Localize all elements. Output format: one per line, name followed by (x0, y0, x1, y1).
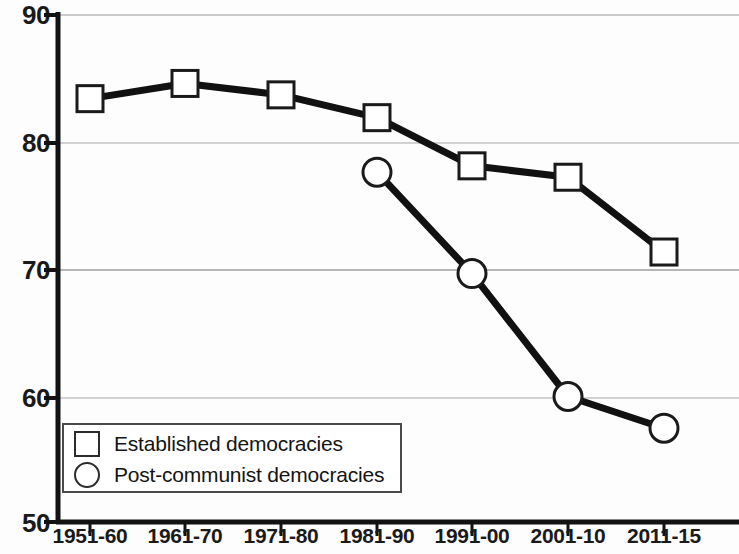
line-chart: 90 80 70 60 50 (0, 0, 739, 554)
data-point-circle (363, 158, 391, 186)
legend-square-marker-icon (74, 431, 100, 457)
legend-circle-marker-icon (74, 462, 100, 488)
legend-item-established: Established democracies (74, 428, 343, 460)
data-point-circle (554, 383, 582, 411)
data-point-square (364, 105, 390, 131)
data-point-circle (650, 414, 678, 442)
gridlines (58, 15, 739, 398)
data-point-circle (458, 260, 486, 288)
legend-item-post-communist: Post-communist democracies (74, 459, 384, 491)
legend-label: Established democracies (114, 432, 343, 456)
data-point-square (172, 70, 198, 96)
series-post-communist-democracies (363, 158, 678, 442)
data-point-square (268, 82, 294, 108)
x-axis-tick-2011-15: 2011-15 (602, 525, 726, 546)
data-point-square (651, 239, 677, 265)
data-point-square (555, 164, 581, 190)
data-point-square (77, 86, 103, 112)
data-point-square (459, 153, 485, 179)
chart-legend: Established democracies Post-communist d… (62, 423, 402, 493)
legend-label: Post-communist democracies (114, 463, 384, 487)
